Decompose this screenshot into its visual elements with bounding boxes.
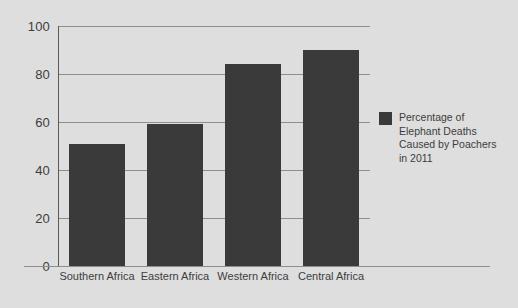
x-category-label: Western Africa	[217, 270, 288, 282]
x-category-label: Central Africa	[298, 270, 364, 282]
x-category-label: Southern Africa	[59, 270, 134, 282]
y-tick-label: 80	[6, 67, 50, 82]
y-tick-label: 20	[6, 211, 50, 226]
bar	[69, 144, 125, 266]
legend-swatch-icon	[379, 112, 392, 125]
chart-legend: Percentage of Elephant Deaths Caused by …	[379, 111, 496, 165]
y-tick-label: 60	[6, 115, 50, 130]
bar	[225, 64, 281, 266]
y-tick-label: 100	[6, 19, 50, 34]
y-tick-label: 40	[6, 163, 50, 178]
legend-label: Percentage of Elephant Deaths Caused by …	[399, 111, 496, 165]
bar-chart: 020406080100 Southern AfricaEastern Afri…	[0, 0, 518, 308]
x-axis-line	[24, 266, 490, 267]
bar-series	[58, 26, 370, 266]
y-axis-tick-labels: 020406080100	[0, 26, 50, 266]
bar	[147, 124, 203, 266]
x-category-label: Eastern Africa	[141, 270, 209, 282]
bar	[303, 50, 359, 266]
x-axis-category-labels: Southern AfricaEastern AfricaWestern Afr…	[58, 270, 380, 290]
